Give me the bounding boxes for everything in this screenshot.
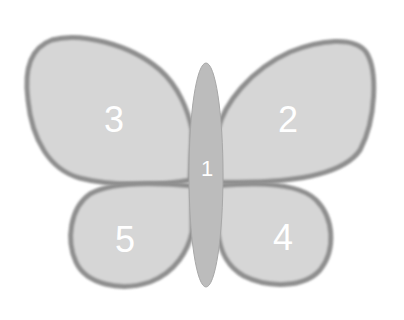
label-5: 5 [115, 219, 135, 260]
label-2: 2 [278, 99, 298, 140]
butterfly-svg: 3 2 1 5 4 [0, 0, 404, 320]
label-3: 3 [104, 99, 124, 140]
butterfly-diagram: 3 2 1 5 4 [0, 0, 404, 320]
label-1: 1 [201, 156, 213, 181]
label-4: 4 [273, 217, 293, 258]
